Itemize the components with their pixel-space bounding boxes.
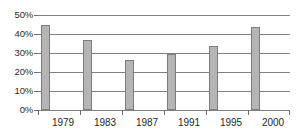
x-tick-mark-5 bbox=[248, 110, 249, 115]
bar-1995 bbox=[209, 46, 218, 110]
bar-1983 bbox=[83, 40, 92, 110]
y-axis-label-30: 30% bbox=[1, 48, 33, 58]
x-axis-label-1987: 1987 bbox=[127, 117, 167, 129]
bar-1991 bbox=[167, 54, 176, 110]
x-tick-mark-6 bbox=[289, 110, 290, 115]
x-tick-mark-1 bbox=[80, 110, 81, 115]
y-axis-label-20: 20% bbox=[1, 67, 33, 77]
x-axis-labels: 1979 1983 1987 1991 1995 2000 bbox=[0, 117, 303, 131]
x-axis-label-2000: 2000 bbox=[253, 117, 293, 129]
y-axis-label-0: 0% bbox=[1, 105, 33, 115]
chart-screenshot: 50% 40% 30% 20% 10% 0% 1979 bbox=[0, 0, 303, 138]
gridline-50 bbox=[38, 15, 290, 16]
x-axis-ticks bbox=[38, 110, 290, 115]
x-axis-label-1983: 1983 bbox=[85, 117, 125, 129]
plot-area bbox=[38, 15, 290, 110]
y-axis-label-10: 10% bbox=[1, 86, 33, 96]
bar-2000 bbox=[251, 27, 260, 110]
x-axis-label-1979: 1979 bbox=[43, 117, 83, 129]
x-axis-label-1995: 1995 bbox=[211, 117, 251, 129]
bar-1979 bbox=[41, 25, 50, 111]
y-axis-label-50: 50% bbox=[1, 10, 33, 20]
x-tick-mark-3 bbox=[164, 110, 165, 115]
x-tick-mark-4 bbox=[206, 110, 207, 115]
y-axis-label-40: 40% bbox=[1, 29, 33, 39]
x-tick-mark-2 bbox=[122, 110, 123, 115]
x-tick-mark-0 bbox=[38, 110, 39, 115]
x-axis-label-1991: 1991 bbox=[169, 117, 209, 129]
bar-1987 bbox=[125, 60, 134, 110]
